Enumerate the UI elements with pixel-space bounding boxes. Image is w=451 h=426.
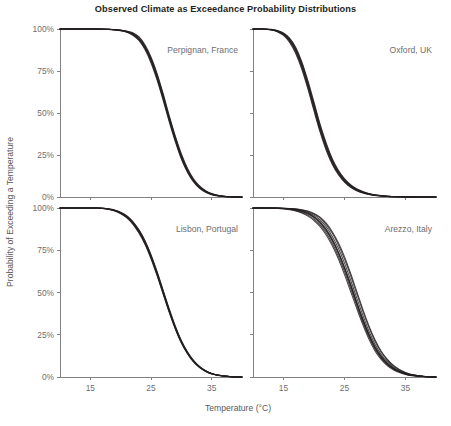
y-tick-label: 100% (33, 24, 55, 34)
y-tick-label: 25% (37, 330, 54, 340)
y-tick-label: 0% (42, 372, 55, 382)
panels-group: 0%25%50%75%100%Perpignan, FranceOxford, … (33, 24, 436, 393)
panel-arezzo-italy: 152535Arezzo, Italy (250, 208, 436, 393)
chart-plot-area: 0%25%50%75%100%Perpignan, FranceOxford, … (0, 0, 451, 426)
y-tick-label: 50% (37, 288, 54, 298)
panel-label: Perpignan, France (167, 45, 238, 55)
x-tick-label: 15 (86, 383, 96, 393)
x-tick-label: 25 (340, 383, 350, 393)
x-tick-label: 25 (146, 383, 156, 393)
panel-lisbon-portugal: 0%25%50%75%100%152535Lisbon, Portugal (33, 203, 242, 393)
y-tick-label: 0% (42, 192, 55, 202)
y-axis-title: Probability of Exceeding a Temperature (5, 137, 15, 287)
y-tick-label: 50% (37, 108, 54, 118)
y-tick-label: 25% (37, 150, 54, 160)
y-tick-label: 75% (37, 245, 54, 255)
x-tick-label: 35 (207, 383, 217, 393)
panel-oxford-uk: Oxford, UK (250, 29, 436, 200)
y-tick-label: 100% (33, 203, 55, 213)
y-tick-label: 75% (37, 66, 54, 76)
exceedance-probability-figure: Observed Climate as Exceedance Probabili… (0, 0, 451, 426)
panel-label: Lisbon, Portugal (176, 224, 238, 234)
panel-label: Oxford, UK (389, 45, 432, 55)
x-tick-label: 15 (279, 383, 289, 393)
panel-label: Arezzo, Italy (385, 224, 433, 234)
x-axis-title: Temperature (°C) (205, 403, 271, 413)
panel-perpignan-france: 0%25%50%75%100%Perpignan, France (33, 24, 242, 202)
x-tick-label: 35 (401, 383, 411, 393)
